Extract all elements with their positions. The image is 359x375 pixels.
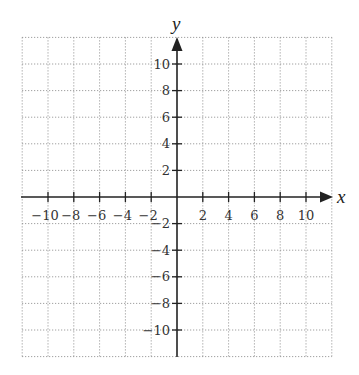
- x-tick-label: 4: [224, 208, 232, 223]
- y-tick-label: 6: [162, 110, 170, 125]
- y-tick-label: −8: [151, 296, 170, 311]
- y-axis-label: y: [170, 13, 181, 34]
- y-tick-label: 8: [162, 83, 170, 98]
- y-tick-label: −6: [151, 269, 170, 284]
- y-tick-label: 10: [153, 57, 170, 72]
- x-tick-label: −10: [31, 208, 58, 223]
- coordinate-plane: x y −10−8−6−4−2246810108642−2−4−6−8−10: [0, 0, 359, 375]
- axes: x y: [21, 13, 346, 357]
- x-tick-label: −6: [87, 208, 106, 223]
- y-tick-label: −4: [151, 243, 170, 258]
- x-axis-label: x: [336, 186, 346, 207]
- x-tick-label: 6: [250, 208, 258, 223]
- x-tick-label: 2: [199, 208, 207, 223]
- x-tick-label: −8: [61, 208, 80, 223]
- x-tick-label: 8: [276, 208, 284, 223]
- x-axis-arrow-icon: [320, 192, 333, 203]
- y-axis-arrow-icon: [172, 37, 183, 51]
- x-tick-label: 10: [298, 208, 315, 223]
- x-tick-label: −4: [113, 208, 132, 223]
- y-tick-label: 4: [162, 136, 170, 151]
- y-tick-label: −10: [143, 323, 170, 338]
- y-tick-label: 2: [162, 163, 170, 178]
- y-tick-label: −2: [151, 216, 170, 231]
